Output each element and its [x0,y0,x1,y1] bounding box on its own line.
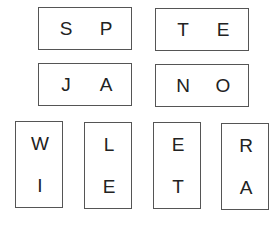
tile-letter: J [56,75,76,94]
tile-letter: P [96,19,116,38]
tile-letter: T [168,177,188,196]
tile-letter: I [30,176,50,195]
tile-letter: E [213,20,233,39]
letter-tile-vertical: L E [84,122,132,209]
letter-tile-horizontal: N O [155,64,249,107]
tile-letter: N [173,76,193,95]
tile-letter: A [96,75,116,94]
tile-letter: A [236,178,256,197]
tile-letter: L [99,135,119,154]
letter-tile-horizontal: S P [38,7,132,50]
tile-letter: O [213,76,233,95]
tile-letter: T [173,20,193,39]
tile-letter: S [56,19,76,38]
tile-letter: R [236,136,256,155]
letter-tile-vertical: E T [153,122,201,209]
letter-tile-horizontal: T E [155,8,249,51]
letter-tile-horizontal: J A [38,63,132,106]
tile-letter: W [30,134,50,153]
letter-tile-vertical: W I [15,121,63,208]
tile-letter: E [168,135,188,154]
tile-letter: E [99,177,119,196]
letter-tile-vertical: R A [221,123,269,210]
